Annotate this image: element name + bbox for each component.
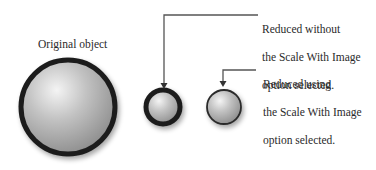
original-object-sphere [21,60,115,154]
callout-line: option selected. [263,133,362,147]
arrow-down-icon [220,81,227,87]
callout-leader-with-scale [220,70,257,87]
callout-line: Reduced without [262,22,361,36]
callout-line: the Scale With Image [262,50,361,64]
callout-line: Reduced using [263,77,362,91]
callout-leader-without-scale [161,15,259,89]
reduced-without-scale-sphere [146,90,180,124]
callout-line: the Scale With Image [263,105,362,119]
reduced-with-scale-sphere [207,90,241,124]
original-object-label: Original object [38,37,107,51]
callout-text-with-scale: Reduced using the Scale With Image optio… [263,63,362,161]
